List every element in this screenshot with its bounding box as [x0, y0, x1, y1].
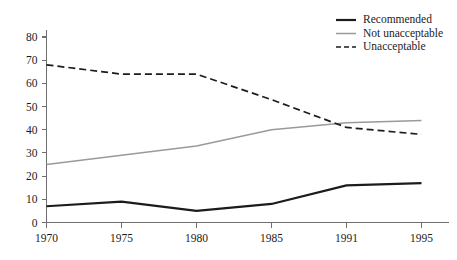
y-tick-label: 0: [32, 217, 38, 229]
x-axis-ticks: [47, 223, 422, 228]
x-axis-tick-labels: 197019751980198519911995: [35, 232, 433, 244]
x-tick-label: 1985: [260, 232, 283, 244]
y-tick-label: 30: [26, 147, 38, 159]
y-axis-ticks: [42, 37, 47, 223]
legend-label-recommended: Recommended: [363, 13, 432, 25]
y-tick-label: 20: [26, 170, 38, 182]
x-tick-label: 1980: [185, 232, 208, 244]
y-tick-label: 80: [26, 31, 38, 43]
series-line-unacceptable: [47, 65, 422, 135]
x-tick-label: 1975: [110, 232, 133, 244]
legend-label-unacceptable: Unacceptable: [363, 40, 426, 53]
series-lines: [47, 65, 422, 211]
x-tick-label: 1970: [35, 232, 58, 244]
x-tick-label: 1995: [410, 232, 433, 244]
legend-label-not-unacceptable: Not unacceptable: [363, 27, 443, 40]
y-tick-label: 50: [26, 101, 38, 113]
chart-legend: RecommendedNot unacceptableUnacceptable: [336, 13, 443, 53]
y-tick-label: 60: [26, 77, 38, 89]
chart-canvas: 01020304050607080 1970197519801985199119…: [0, 0, 457, 260]
line-chart: 01020304050607080 1970197519801985199119…: [0, 0, 457, 260]
x-tick-label: 1991: [335, 232, 358, 244]
y-tick-label: 40: [26, 124, 38, 136]
y-tick-label: 70: [26, 54, 38, 66]
series-line-not-unacceptable: [47, 120, 422, 164]
y-tick-label: 10: [26, 193, 38, 205]
series-line-recommended: [47, 183, 422, 211]
y-axis-tick-labels: 01020304050607080: [26, 31, 38, 229]
